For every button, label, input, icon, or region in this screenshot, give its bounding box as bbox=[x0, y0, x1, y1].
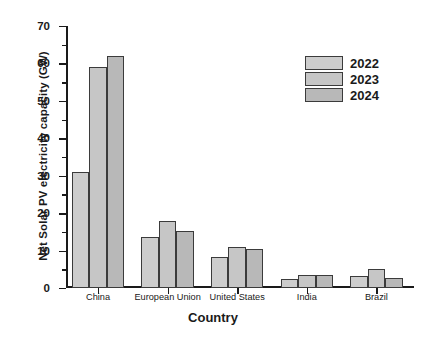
y-tick-50: 50 bbox=[59, 101, 66, 102]
y-tick-label-20: 20 bbox=[37, 207, 50, 219]
y-tick-20: 20 bbox=[59, 213, 66, 214]
y-tick-label-60: 60 bbox=[37, 57, 50, 69]
y-tick-60: 60 bbox=[59, 63, 66, 64]
y-tick-label-70: 70 bbox=[37, 20, 50, 32]
x-axis-title: Country bbox=[0, 310, 426, 325]
bar-china-2024 bbox=[107, 56, 125, 288]
y-tick-label-30: 30 bbox=[37, 170, 50, 182]
bar-chart: Net Solar PV electricity capacity (GW) 0… bbox=[0, 0, 426, 342]
y-tick-70: 70 bbox=[59, 26, 66, 27]
bar-india-2022 bbox=[281, 279, 299, 288]
bar-india-2023 bbox=[298, 275, 316, 288]
bar-brazil-2022 bbox=[350, 276, 368, 288]
legend-swatch-2022 bbox=[305, 56, 343, 70]
y-tick-label-40: 40 bbox=[37, 132, 50, 144]
legend-swatch-2023 bbox=[305, 72, 343, 86]
y-tick-label-0: 0 bbox=[44, 282, 50, 294]
category-label-brazil: Brazil bbox=[365, 292, 388, 302]
bar-united-states-2023 bbox=[228, 247, 246, 288]
legend-label-2022: 2022 bbox=[350, 57, 379, 70]
bar-european-union-2023 bbox=[159, 221, 177, 288]
y-axis-line bbox=[66, 26, 68, 288]
y-minor-tick-15 bbox=[62, 232, 66, 233]
y-minor-tick-35 bbox=[62, 157, 66, 158]
bar-european-union-2024 bbox=[176, 231, 194, 288]
y-minor-tick-25 bbox=[62, 194, 66, 195]
bar-united-states-2024 bbox=[246, 249, 264, 288]
legend-label-2024: 2024 bbox=[350, 89, 379, 102]
y-tick-label-10: 10 bbox=[37, 245, 50, 257]
legend: 2022 2023 2024 bbox=[305, 55, 379, 103]
bar-brazil-2023 bbox=[368, 269, 386, 288]
category-label-european-union: European Union bbox=[134, 292, 200, 302]
y-minor-tick-5 bbox=[62, 269, 66, 270]
category-label-united-states: United States bbox=[210, 292, 265, 302]
category-label-china: China bbox=[86, 292, 110, 302]
y-minor-tick-55 bbox=[62, 82, 66, 83]
category-label-india: India bbox=[297, 292, 317, 302]
legend-label-2023: 2023 bbox=[350, 73, 379, 86]
bar-china-2023 bbox=[89, 67, 107, 288]
legend-item-2024[interactable]: 2024 bbox=[305, 87, 379, 103]
bar-china-2022 bbox=[72, 172, 90, 288]
y-minor-tick-65 bbox=[62, 45, 66, 46]
legend-item-2022[interactable]: 2022 bbox=[305, 55, 379, 71]
legend-swatch-2024 bbox=[305, 88, 343, 102]
bar-india-2024 bbox=[316, 275, 334, 288]
legend-item-2023[interactable]: 2023 bbox=[305, 71, 379, 87]
bar-european-union-2022 bbox=[141, 237, 159, 288]
y-tick-40: 40 bbox=[59, 138, 66, 139]
y-tick-10: 10 bbox=[59, 251, 66, 252]
bar-brazil-2024 bbox=[385, 278, 403, 288]
bar-united-states-2022 bbox=[211, 257, 229, 288]
y-tick-0: 0 bbox=[59, 288, 66, 289]
y-minor-tick-45 bbox=[62, 120, 66, 121]
y-tick-30: 30 bbox=[59, 176, 66, 177]
y-tick-label-50: 50 bbox=[37, 95, 50, 107]
